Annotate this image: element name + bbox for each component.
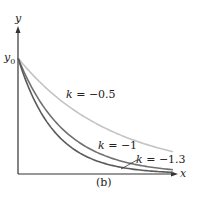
k-neg0-5-label: k = −0.5 bbox=[66, 88, 116, 101]
y-axis-arrow-icon bbox=[16, 26, 21, 33]
y0-label-sub: 0 bbox=[10, 57, 15, 66]
y0-label: y0 bbox=[3, 51, 15, 66]
curve-1 bbox=[18, 58, 173, 152]
k-neg1-label: k = −1 bbox=[98, 139, 137, 152]
k-neg1-3-label: k = −1.3 bbox=[136, 153, 186, 166]
chart-caption: (b) bbox=[96, 176, 112, 189]
x-axis-label: x bbox=[180, 167, 187, 180]
y-axis-label: y bbox=[14, 12, 22, 25]
exponential-decay-chart: y x y0 k = −0.5 k = −1 k = −1.3 (b) bbox=[0, 0, 206, 202]
